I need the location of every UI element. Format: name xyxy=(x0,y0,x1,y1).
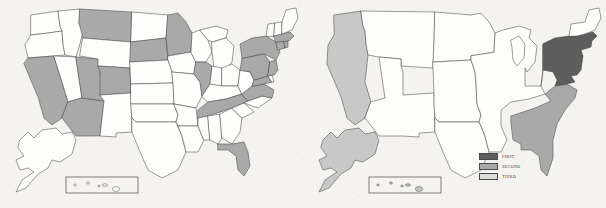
region-mountain-south[interactable] xyxy=(365,57,435,137)
hawaii-isle-oahu xyxy=(390,182,393,184)
state-alabama[interactable] xyxy=(208,114,222,144)
hawaii-isle-molokai xyxy=(401,185,404,187)
us-state-map-left[interactable] xyxy=(0,0,303,208)
state-new-mexico[interactable] xyxy=(100,93,132,137)
legend-label-second: SECOND xyxy=(502,163,520,170)
legend-swatch-second xyxy=(479,163,498,170)
hawaii-isle-oahu xyxy=(87,182,90,184)
state-oregon[interactable] xyxy=(25,31,65,58)
state-oklahoma[interactable] xyxy=(131,104,178,122)
map-panel-right[interactable]: FIRST SECOND THIRD xyxy=(303,0,606,208)
hawaii-isle-kauai xyxy=(377,184,379,186)
legend-swatch-third xyxy=(479,173,498,180)
state-south-dakota[interactable] xyxy=(130,38,168,62)
state-maine[interactable] xyxy=(282,8,298,34)
map-panel-left[interactable] xyxy=(0,0,303,208)
state-colorado[interactable] xyxy=(98,66,131,95)
hawaii-isle-kauai xyxy=(74,184,76,186)
hawaii-isle-maui xyxy=(405,184,410,186)
state-minnesota[interactable] xyxy=(166,13,192,56)
hawaii-inset-box xyxy=(66,177,138,193)
hawaii-isle-molokai xyxy=(98,185,101,187)
state-ohio[interactable] xyxy=(222,64,240,86)
us-region-map-right[interactable] xyxy=(303,0,606,208)
state-arizona[interactable] xyxy=(62,98,104,136)
legend-item-first[interactable]: FIRST xyxy=(479,152,553,161)
region-northern-new-england[interactable] xyxy=(569,8,601,36)
hawaii-inset-box xyxy=(369,177,441,193)
state-iowa[interactable] xyxy=(168,52,196,74)
legend-swatch-first xyxy=(479,153,498,160)
state-rhode-island[interactable] xyxy=(284,41,288,48)
hawaii-isle-maui xyxy=(102,184,107,186)
state-north-dakota[interactable] xyxy=(131,12,168,42)
state-alaska-inset[interactable] xyxy=(16,128,76,192)
map-legend: FIRST SECOND THIRD xyxy=(479,152,553,182)
legend-item-second[interactable]: SECOND xyxy=(479,162,553,171)
state-kansas[interactable] xyxy=(131,83,174,104)
region-northeast[interactable] xyxy=(543,32,597,86)
state-florida[interactable] xyxy=(218,142,250,176)
state-vermont[interactable] xyxy=(266,23,275,36)
state-montana[interactable] xyxy=(79,9,132,42)
hawaii-isle-hawaii xyxy=(112,187,119,192)
region-alaska-inset[interactable] xyxy=(319,128,379,192)
hawaii-isle-hawaii xyxy=(415,187,422,192)
figure-root: FIRST SECOND THIRD xyxy=(0,0,606,208)
legend-item-third[interactable]: THIRD xyxy=(479,172,553,181)
region-plains-central[interactable] xyxy=(433,60,481,122)
state-texas[interactable] xyxy=(132,118,186,178)
state-new-hampshire[interactable] xyxy=(274,22,282,36)
state-indiana[interactable] xyxy=(210,66,222,86)
legend-label-third: THIRD xyxy=(502,173,516,180)
legend-label-first: FIRST xyxy=(502,153,515,160)
state-nebraska[interactable] xyxy=(130,60,173,84)
